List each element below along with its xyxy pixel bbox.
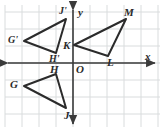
label-G: G: [10, 79, 18, 90]
label-x-axis: x: [145, 51, 151, 62]
label-L: L: [107, 57, 114, 68]
label-J: J: [64, 110, 70, 121]
label-H: H: [50, 64, 59, 75]
triangle-G-H-J: [24, 74, 66, 108]
triangle-G-prime-J-prime-H-prime: [24, 19, 66, 53]
coordinate-plane-figure: G'J'H'KLMGHJOxy: [0, 0, 165, 132]
label-M: M: [124, 7, 134, 18]
label-K: K: [63, 40, 70, 51]
triangle-K-L-M: [74, 19, 126, 56]
label-G-prime: G': [8, 35, 18, 45]
label-y-axis: y: [78, 7, 83, 18]
label-O: O: [76, 64, 84, 75]
label-J-prime: J': [59, 6, 67, 16]
